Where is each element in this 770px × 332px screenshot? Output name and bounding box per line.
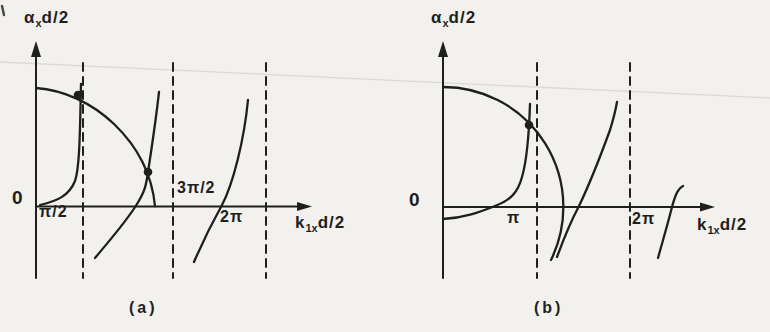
panel-a-caption: (a) [129,299,158,317]
panel-a-x-axis-label: k1xd/2 [295,213,345,233]
panel-a-x-axis-arrowhead-icon [297,202,312,211]
panel-b-y-axis-label-rest: d/2 [449,8,477,27]
panel-b-axes [438,41,715,278]
panel-a-origin-label: 0 [12,187,24,209]
panel-b-x-axis-label: k1xd/2 [697,215,747,235]
panel-b-x-axis-arrowhead-icon [700,203,715,212]
panel-a-tick-2pi: 2π [220,208,243,226]
panel-b-y-axis-label-base: α [431,8,442,27]
scan-speck-artifact [2,6,4,15]
panel-a-intersection-dot-2 [144,168,153,177]
panel-a-y-axis-label: αxd/2 [24,8,69,28]
panel-b-plot [438,41,715,278]
panel-b-x-axis-label-sub: 1x [707,224,719,236]
scan-line-artifact [0,62,770,98]
panel-b-asymptote-lines [537,63,630,278]
panel-b-cot-branch-1 [443,104,530,219]
panel-b-cot-branch-3 [658,186,683,258]
panel-a-tan-branch-1 [40,84,81,205]
panel-b-caption: (b) [534,299,563,317]
panel-a-y-axis-label-base: α [24,8,35,27]
panel-a-curves [36,84,248,262]
panel-b-tick-pi: π [507,209,520,227]
figure-canvas: αxd/2 k1xd/2 0 π/2 3π/2 2π (a) αxd/2 k1x… [0,0,770,332]
panel-b-x-axis-label-rest: d/2 [720,215,748,234]
panel-a-x-axis-label-base: k [295,213,305,232]
panel-a-intersection-dot-1 [74,91,83,100]
panel-b-x-axis-label-base: k [697,215,707,234]
panel-b-circle-arc [443,87,563,260]
panel-a-tick-3pi-over-2: 3π/2 [177,179,216,197]
panel-a-y-axis-arrowhead-icon [31,41,41,57]
panel-b-origin-label: 0 [409,189,421,211]
panel-b-y-axis-label: αxd/2 [431,8,476,28]
panel-b-tick-2pi: 2π [632,210,655,228]
panel-b-intersection-dots [525,121,534,130]
figure-plot-svg [0,0,770,332]
panel-b-curves [443,87,683,260]
panel-a-circle-arc [36,88,155,206]
panel-a-asymptote-lines [83,63,266,278]
panel-a-y-axis-label-rest: d/2 [42,8,70,27]
panel-b-y-axis-arrowhead-icon [438,41,448,57]
scan-artifacts [0,6,770,98]
panel-a-plot [31,41,312,278]
panel-a-axes [31,41,312,278]
panel-a-tick-pi-over-2: π/2 [39,203,68,221]
panel-a-x-axis-label-sub: 1x [305,222,317,234]
panel-a-x-axis-label-rest: d/2 [318,213,346,232]
panel-b-cot-branch-2 [557,102,617,257]
panel-b-intersection-dot-1 [525,121,534,130]
